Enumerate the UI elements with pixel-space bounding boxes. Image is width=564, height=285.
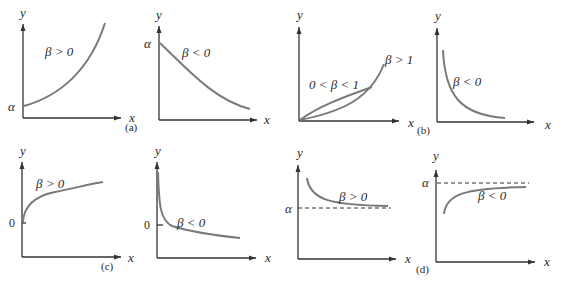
intercept-label: α [8, 99, 16, 114]
panel-caption: (a) [125, 121, 138, 134]
x-axis-label: x [543, 254, 550, 269]
x-axis-label: x [544, 117, 551, 132]
growth-curve [24, 23, 105, 106]
curve-label: β < 0 [176, 215, 206, 230]
y-axis-label: y [295, 7, 303, 22]
intercept-label: 0 [144, 218, 150, 232]
curve-label: β > 0 [35, 176, 65, 191]
panel-b-left: y x 0 < β < 1 β > 1 [295, 7, 414, 130]
panel-d-left: y x α β > 0 [285, 145, 411, 266]
intercept-label: α [144, 36, 152, 51]
x-axis-label: x [264, 250, 271, 265]
y-axis-label: y [18, 143, 26, 158]
x-axis-label: x [263, 112, 270, 127]
intercept-label: 0 [9, 216, 15, 230]
panel-caption: (d) [416, 263, 429, 276]
curve-label: β > 0 [338, 189, 368, 204]
panel-b-right: y x β < 0 (b) [417, 8, 551, 137]
asymptote-label: α [422, 175, 430, 190]
curve-label-1: 0 < β < 1 [309, 77, 359, 92]
asymptote-label: α [285, 201, 293, 216]
x-axis-label: x [407, 115, 414, 130]
y-axis-label: y [154, 7, 162, 22]
panel-a-left: y x α β > 0 [8, 5, 135, 125]
curve-label: β > 0 [44, 44, 74, 59]
panel-caption: (c) [101, 260, 114, 273]
y-axis-label: y [18, 5, 26, 20]
curve-label: β < 0 [181, 45, 211, 60]
panel-c-left: y x 0 β > 0 [9, 143, 134, 265]
y-axis-label: y [153, 143, 161, 158]
curve-label: β < 0 [452, 74, 482, 89]
y-axis-label: y [433, 8, 441, 23]
curve-label: β < 0 [477, 188, 507, 203]
panel-a-right: y x α β < 0 (a) [125, 7, 270, 134]
y-axis-label: y [431, 148, 439, 163]
panel-caption: (b) [417, 124, 430, 137]
panel-d-right: y x α β < 0 (d) [416, 148, 550, 276]
x-axis-label: x [404, 251, 411, 266]
panel-c-right: y x 0 β < 0 (c) [101, 143, 271, 273]
x-axis-label: x [127, 250, 134, 265]
y-axis-label: y [295, 145, 303, 160]
curve-label-2: β > 1 [384, 52, 413, 67]
